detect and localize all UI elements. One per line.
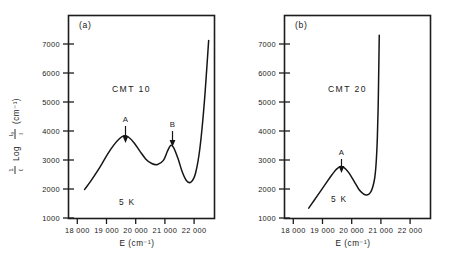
figure-container: 1000 2000 3000 4000 5000 6000 7000 18 00…: [0, 0, 455, 265]
panel-b-xtick-22000: 22 000: [398, 226, 423, 235]
panel-a-peak-a-annotation: A: [123, 115, 129, 143]
y-axis-label-fraction-i0-over-i: I₀ I: [7, 129, 24, 139]
panel-a-spectrum-curve: [85, 40, 209, 189]
panel-a-xtick-21000: 21 000: [153, 226, 178, 235]
panel-b-ytick-3000: 3000: [258, 156, 276, 165]
panel-b-xtick-21000: 21 000: [369, 226, 394, 235]
panel-a-x-ticklabels: 18 000 19 000 20 000 21 000 22 000: [65, 226, 207, 235]
y-axis-label-fraction-one-over-l: 1 ℓ: [7, 166, 24, 174]
panel-b-ytick-2000: 2000: [258, 185, 276, 194]
y-axis-label-units: (cm⁻¹): [12, 98, 21, 124]
panel-b-spectrum-curve: [309, 35, 380, 208]
panel-b-ytick-7000: 7000: [258, 40, 276, 49]
panel-a-xtick-22000: 22 000: [182, 226, 207, 235]
panel-a-peak-b-annotation: B: [170, 120, 176, 147]
panel-b-xtick-20000: 20 000: [339, 226, 364, 235]
svg-text:I₀: I₀: [7, 131, 14, 136]
panel-a-peak-b-label: B: [170, 120, 176, 129]
panel-a-ytick-3000: 3000: [42, 156, 60, 165]
panel-b-x-axis-label: E (cm⁻¹): [336, 239, 371, 248]
panel-a: 1000 2000 3000 4000 5000 6000 7000 18 00…: [42, 16, 214, 249]
panel-b: 1000 2000 3000 4000 5000 6000 7000 18 00…: [258, 16, 430, 249]
absorption-spectra-figure: 1000 2000 3000 4000 5000 6000 7000 18 00…: [0, 0, 455, 265]
panel-b-tag: (b): [295, 20, 308, 30]
panel-b-ytick-5000: 5000: [258, 98, 276, 107]
panel-a-ytick-1000: 1000: [42, 214, 60, 223]
panel-a-temperature-label: 5 K: [119, 197, 135, 207]
panel-a-xtick-18000: 18 000: [65, 226, 90, 235]
panel-b-y-ticklabels: 1000 2000 3000 4000 5000 6000 7000: [258, 40, 276, 223]
panel-a-y-ticklabels: 1000 2000 3000 4000 5000 6000 7000: [42, 40, 60, 223]
panel-b-ytick-6000: 6000: [258, 69, 276, 78]
panel-b-peak-a-label: A: [339, 148, 345, 157]
panel-b-ytick-1000: 1000: [258, 214, 276, 223]
panel-b-xtick-18000: 18 000: [281, 226, 306, 235]
panel-a-ytick-6000: 6000: [42, 69, 60, 78]
svg-text:ℓ: ℓ: [17, 169, 24, 171]
panel-b-sample-label: CMT 20: [328, 84, 367, 94]
panel-a-sample-label: CMT 10: [112, 84, 151, 94]
panel-a-xtick-20000: 20 000: [123, 226, 148, 235]
panel-a-ytick-2000: 2000: [42, 185, 60, 194]
panel-b-ytick-4000: 4000: [258, 127, 276, 136]
svg-text:1: 1: [7, 168, 14, 172]
panel-a-tag: (a): [79, 20, 92, 30]
y-axis-label-log: Log: [12, 146, 21, 161]
panel-a-ytick-5000: 5000: [42, 98, 60, 107]
panel-a-ytick-7000: 7000: [42, 40, 60, 49]
panel-b-peak-a-annotation: A: [339, 148, 345, 173]
panel-b-xtick-19000: 19 000: [310, 226, 335, 235]
y-axis-label-group: 1 ℓ Log I₀ I (cm⁻¹): [7, 98, 24, 174]
svg-text:I: I: [17, 133, 24, 135]
panel-b-temperature-label: 5 K: [331, 194, 347, 204]
panel-a-ytick-4000: 4000: [42, 127, 60, 136]
panel-a-plot-frame: [69, 16, 215, 219]
panel-a-peak-a-label: A: [123, 115, 129, 124]
panel-a-x-axis-label: E (cm⁻¹): [120, 239, 155, 248]
panel-a-xtick-19000: 19 000: [94, 226, 119, 235]
panel-b-x-ticklabels: 18 000 19 000 20 000 21 000 22 000: [281, 226, 423, 235]
